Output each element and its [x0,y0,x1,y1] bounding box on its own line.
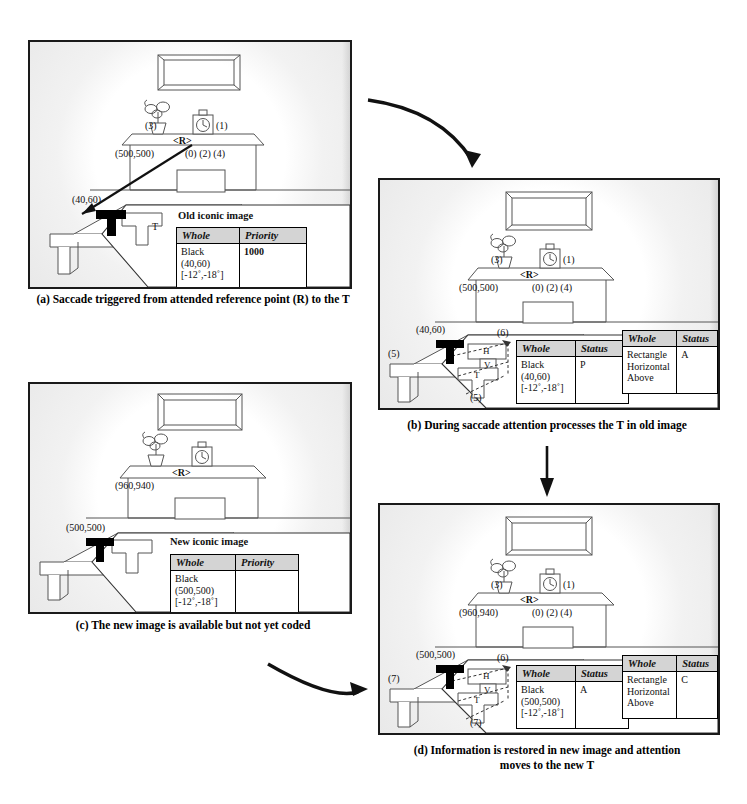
cell-line: (500,500) [521,696,571,708]
col-header-status: Status [576,341,629,357]
panel-d-callout-top-index: (6) [497,652,509,663]
cell-whole: Rectangle Horizontal Above [623,347,677,394]
panel-d-part-h-label: H [483,671,490,681]
cell-priority [236,571,299,615]
panel-a-reference-label: <R> [173,135,192,146]
panel-b-callout-top-index: (6) [497,327,509,338]
cell-whole: Rectangle Horizontal Above [623,672,677,719]
panel-b-part-v-label: V [484,360,491,370]
panel-b-reference-label: <R> [520,269,539,280]
cell-line: [-12˚,-18˚] [521,382,571,394]
cell-line: Rectangle [627,349,672,361]
panel-b-shelf-coord: (500,500) [459,282,498,293]
panel-b-shelf-indices: (0) (2) (4) [532,282,572,293]
panel-b-scene: <R> (500,500) (0) (2) (4) (3) (1) (40,60… [380,180,718,408]
panel-c-reference-label: <R> [172,467,191,478]
cell-line: Above [627,372,672,384]
panel-a-table-coord: (40,60) [72,194,101,205]
col-header-whole: Whole [623,656,677,672]
panel-b-callout-bottom-index: (5) [470,392,482,403]
panel-d-part-t-label: T [474,695,480,705]
cell-line: [-12˚,-18˚] [175,596,231,608]
panel-c-shelf-coord: (960,940) [115,480,154,491]
panel-d-plant-index: (3) [491,579,503,590]
panel-a-callout-letter: T [152,221,158,232]
panel-d-shelf-coord: (960,940) [459,607,498,618]
panel-a-shelf-coord: (500,500) [115,148,154,159]
panel-a-table: Whole Priority Black (40,60) [-12˚,-18˚]… [176,227,307,289]
panel-d-shelf-indices: (0) (2) (4) [532,607,572,618]
col-header-whole: Whole [517,666,576,682]
panel-d-reference-label: <R> [520,594,539,605]
table-row: Rectangle Horizontal Above C [623,672,718,719]
cell-status: A [576,682,629,729]
col-header-priority: Priority [240,228,307,244]
panel-b-part-t-label: T [474,370,480,380]
panel-d-table-parts-status: Whole Status Rectangle Horizontal Above … [622,655,718,719]
cell-line: [-12˚,-18˚] [521,707,571,719]
panel-b-table-index: (5) [388,348,400,359]
panel-b-part-h-label: H [483,346,490,356]
cell-line: Black [175,573,231,585]
panel-b-plant-index: (3) [491,254,503,265]
table-header-row: Whole Priority [171,555,299,571]
cell-line: Horizontal [627,361,672,373]
col-header-whole: Whole [171,555,236,571]
cell-line: Black [181,246,235,258]
cell-status: C [677,672,718,719]
panel-d-table-index: (7) [388,673,400,684]
col-header-whole: Whole [517,341,576,357]
figure-root: <R> (500,500) (0) (2) (4) (3) (1) (40,60… [0,0,747,804]
panel-b-table-parts-status: Whole Status Rectangle Horizontal Above … [622,330,718,394]
panel-b-clock-index: (1) [563,254,575,265]
cell-whole: Black (40,60) [-12˚,-18˚] [517,357,576,404]
panel-d-table-coord: (500,500) [416,649,455,660]
panel-a-scene: <R> (500,500) (0) (2) (4) (3) (1) (40,60… [30,42,350,287]
panel-a: <R> (500,500) (0) (2) (4) (3) (1) (40,60… [28,40,352,289]
cell-status: A [677,347,718,394]
col-header-status: Status [576,666,629,682]
cell-line: Black [521,684,571,696]
cell-line: (500,500) [175,585,231,597]
panel-d-clock-index: (1) [563,579,575,590]
table-row: Black (40,60) [-12˚,-18˚] 1000 [177,244,307,290]
panel-a-t-object [96,210,126,236]
table-row: Rectangle Horizontal Above A [623,347,718,394]
cell-whole: Black (500,500) [-12˚,-18˚] [171,571,236,615]
cell-line: [-12˚,-18˚] [181,269,235,281]
col-header-status: Status [677,656,718,672]
panel-d-scene: <R> (960,940) (0) (2) (4) (3) (1) (500,5… [380,505,718,733]
panel-d-caption-line2: moves to the new T [368,758,726,773]
col-header-status: Status [677,331,718,347]
arrow-b-to-d [540,446,554,497]
table-header-row: Whole Status [623,331,718,347]
cell-line: (40,60) [181,258,235,270]
col-header-whole: Whole [623,331,677,347]
panel-c-t-object [86,538,114,562]
panel-d-t-object [436,665,464,689]
panel-a-caption: (a) Saccade triggered from attended refe… [28,292,358,307]
panel-c-caption: (c) The new image is available but not y… [28,618,358,633]
table-header-row: Whole Status [517,666,629,682]
table-header-row: Whole Priority [177,228,307,244]
cell-whole: Black (500,500) [-12˚,-18˚] [517,682,576,729]
cell-line: Horizontal [627,686,672,698]
panel-b-table-coord: (40,60) [416,324,445,335]
panel-d: <R> (960,940) (0) (2) (4) (3) (1) (500,5… [378,503,720,735]
panel-b-caption: (b) During saccade attention processes t… [368,418,726,433]
table-row: Black (500,500) [-12˚,-18˚] A [517,682,629,729]
cell-status: P [576,357,629,404]
panel-c-table-title: New iconic image [170,536,248,547]
table-row: Black (40,60) [-12˚,-18˚] P [517,357,629,404]
arrow-a-to-b [368,100,481,168]
cell-line: Above [627,697,672,709]
panel-d-part-v-label: V [484,685,491,695]
panel-a-shelf-indices: (0) (2) (4) [185,148,225,159]
panel-b: <R> (500,500) (0) (2) (4) (3) (1) (40,60… [378,178,720,410]
panel-a-clock-index: (1) [216,120,228,131]
cell-whole: Black (40,60) [-12˚,-18˚] [177,244,240,290]
cell-line: Rectangle [627,674,672,686]
panel-a-table-title: Old iconic image [178,210,253,221]
table-header-row: Whole Status [623,656,718,672]
panel-c-table: Whole Priority Black (500,500) [-12˚,-18… [170,554,299,614]
